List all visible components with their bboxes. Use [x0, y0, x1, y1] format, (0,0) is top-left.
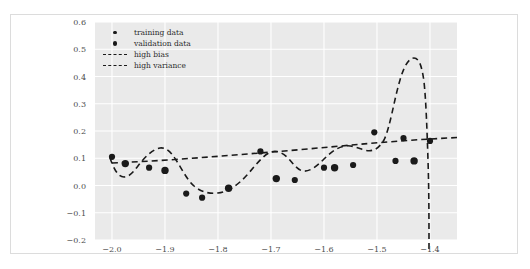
y-tick-label: 0.5 — [60, 45, 86, 54]
y-tick-label: 0.4 — [60, 72, 86, 81]
data-point — [400, 135, 406, 141]
y-tick-label: 0.0 — [60, 181, 86, 190]
y-tick-label: 0.3 — [60, 99, 86, 108]
data-point — [331, 164, 338, 171]
data-point — [122, 160, 129, 167]
legend-label: high variance — [134, 61, 186, 70]
legend-label: training data — [134, 28, 183, 37]
data-point — [183, 191, 189, 197]
data-point — [392, 158, 398, 164]
x-tick-label: −1.4 — [410, 245, 450, 254]
dashed-line-icon — [100, 54, 130, 55]
high-bias-curve — [112, 138, 457, 164]
scatter-dot-small-icon — [100, 31, 130, 34]
legend-item-high-variance: high variance — [100, 60, 191, 71]
data-point — [199, 195, 205, 201]
high-variance-curve — [110, 58, 429, 250]
x-tick-label: −1.7 — [251, 245, 291, 254]
data-point — [292, 177, 298, 183]
y-tick-label: 0.6 — [60, 18, 86, 27]
validation-data-points — [122, 157, 418, 192]
data-point — [410, 157, 417, 164]
data-point — [427, 138, 433, 144]
data-point — [371, 129, 377, 135]
x-tick-label: −1.8 — [198, 245, 238, 254]
y-tick-label: 0.1 — [60, 154, 86, 163]
legend-label: validation data — [134, 39, 191, 48]
y-tick-label: 0.2 — [60, 127, 86, 136]
figure-container: 0.6 0.5 0.4 0.3 0.2 0.1 0.0 −0.1 −0.2 −2… — [0, 0, 530, 269]
x-tick-label: −2.0 — [92, 245, 132, 254]
x-tick-label: −1.6 — [304, 245, 344, 254]
legend-item-high-bias: high bias — [100, 49, 191, 60]
data-point — [161, 167, 168, 174]
chart-legend: training data validation data high bias … — [100, 27, 191, 71]
data-point — [109, 154, 115, 160]
y-tick-label: −0.2 — [58, 236, 86, 245]
y-tick-label: −0.1 — [58, 208, 86, 217]
data-point — [321, 165, 327, 171]
data-point — [225, 185, 232, 192]
dashed-line-icon — [100, 65, 130, 66]
x-tick-label: −1.9 — [145, 245, 185, 254]
scatter-dot-large-icon — [100, 41, 130, 46]
x-tick-label: −1.5 — [357, 245, 397, 254]
data-point — [146, 165, 152, 171]
data-point — [350, 162, 356, 168]
data-point — [273, 175, 280, 182]
legend-label: high bias — [134, 50, 169, 59]
legend-item-training-data: training data — [100, 27, 191, 38]
legend-item-validation-data: validation data — [100, 38, 191, 49]
data-point — [257, 148, 263, 154]
